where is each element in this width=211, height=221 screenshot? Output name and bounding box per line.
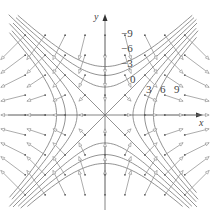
gradient-field-figure: y x −9 −6 −3 0 3 6 9 (0, 0, 211, 221)
y-axis-label: y (94, 12, 98, 22)
x-axis-label: x (199, 118, 203, 128)
plot-canvas (0, 0, 211, 221)
level-label: −9 (121, 28, 133, 39)
level-label: 6 (160, 84, 166, 95)
level-label: −3 (121, 58, 133, 69)
level-label: −6 (121, 43, 133, 54)
level-label: 0 (130, 74, 136, 85)
level-label: 9 (174, 84, 180, 95)
level-label: 3 (146, 84, 152, 95)
